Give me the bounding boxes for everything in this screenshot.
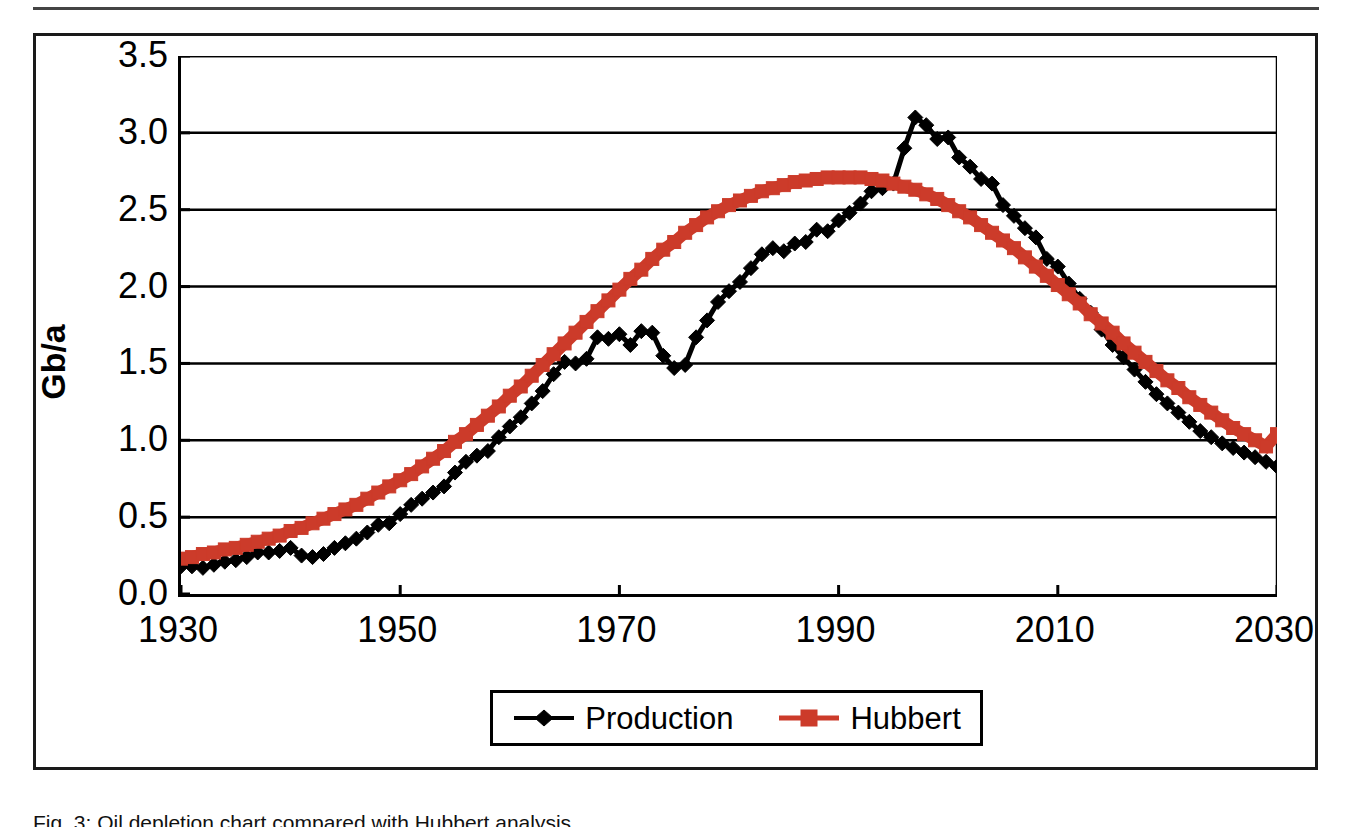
data-point-marker bbox=[1260, 440, 1273, 453]
x-axis-tick-label: 1950 bbox=[327, 612, 467, 648]
x-axis-tick-labels: 193019501970199020102030 bbox=[178, 612, 1278, 662]
x-axis-tick-label: 2010 bbox=[985, 612, 1125, 648]
figure-frame: Gb/a 0.00.51.01.52.02.53.03.5 1930195019… bbox=[33, 33, 1318, 770]
y-axis-tick-label: 1.5 bbox=[58, 344, 168, 380]
data-point-marker bbox=[1271, 428, 1278, 441]
x-axis-tick-label: 1970 bbox=[546, 612, 686, 648]
series-line bbox=[181, 177, 1277, 558]
plot-area bbox=[178, 56, 1277, 597]
legend-entry-production[interactable]: Production bbox=[512, 703, 733, 734]
y-axis-tick-label: 0.5 bbox=[58, 498, 168, 534]
legend-square-marker-icon bbox=[777, 709, 841, 727]
legend-label: Production bbox=[585, 703, 733, 734]
chart-legend: ProductionHubbert bbox=[490, 690, 983, 746]
top-divider-rule bbox=[33, 7, 1319, 10]
legend-entry-hubbert[interactable]: Hubbert bbox=[777, 703, 960, 734]
y-axis-tick-label: 3.0 bbox=[58, 114, 168, 150]
x-axis-tick-label: 1990 bbox=[766, 612, 906, 648]
data-point-marker bbox=[897, 141, 912, 156]
legend-diamond-marker-icon bbox=[512, 709, 576, 727]
y-axis-tick-label: 3.5 bbox=[58, 37, 168, 73]
y-axis-tick-label: 2.0 bbox=[58, 268, 168, 304]
chart-canvas bbox=[181, 56, 1277, 594]
y-axis-tick-labels: 0.00.51.01.52.02.53.03.5 bbox=[46, 56, 168, 594]
x-axis-tick-label: 2030 bbox=[1204, 612, 1344, 648]
series-hubbert bbox=[181, 171, 1277, 565]
x-axis-tick-label: 1930 bbox=[108, 612, 248, 648]
legend-label: Hubbert bbox=[850, 703, 960, 734]
y-axis-tick-label: 1.0 bbox=[58, 421, 168, 457]
y-axis-tick-label: 0.0 bbox=[58, 575, 168, 611]
figure-caption: Fig. 3: Oil depletion chart compared wit… bbox=[33, 811, 571, 827]
y-axis-tick-label: 2.5 bbox=[58, 191, 168, 227]
